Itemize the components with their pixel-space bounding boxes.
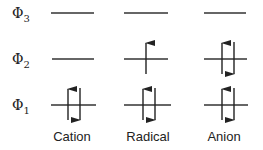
mo-diagram: Φ3 Φ2 Φ1 Cation Radical Anion: [0, 0, 263, 150]
level-label-phi1: Φ1: [12, 97, 30, 116]
level-label-phi3: Φ3: [12, 5, 30, 24]
column-label-radical: Radical: [126, 129, 169, 144]
level-label-phi2: Φ2: [12, 51, 30, 70]
column-label-anion: Anion: [207, 129, 240, 144]
column-label-cation: Cation: [53, 129, 91, 144]
